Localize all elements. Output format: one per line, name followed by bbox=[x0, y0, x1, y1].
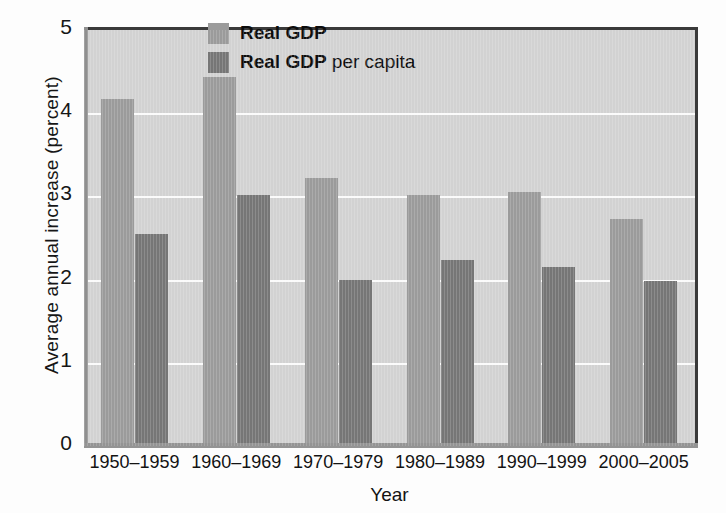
y-tick-label: 4 bbox=[38, 98, 72, 122]
bar-real-gdp bbox=[610, 219, 643, 446]
bar-chart-figure: Average annual increase (percent) 012345… bbox=[0, 0, 726, 513]
y-axis-tick-labels: 012345 bbox=[38, 0, 72, 513]
y-tick-label: 0 bbox=[38, 431, 72, 455]
y-axis-line bbox=[84, 27, 88, 446]
y-tick-label: 3 bbox=[38, 181, 72, 205]
bar-real-gdp bbox=[508, 192, 541, 446]
legend-item-real-gdp-per-capita: Real GDP per capita bbox=[208, 51, 415, 73]
x-tick-label: 1980–1989 bbox=[395, 452, 485, 473]
bar-real-gdp-per-capita bbox=[237, 195, 270, 446]
bar-real-gdp bbox=[203, 77, 236, 446]
bar-group bbox=[101, 30, 168, 446]
bar-group bbox=[508, 30, 575, 446]
x-tick-label: 1990–1999 bbox=[497, 452, 587, 473]
bar-real-gdp bbox=[305, 178, 338, 446]
plot-area bbox=[84, 27, 698, 446]
bar-real-gdp-per-capita bbox=[441, 260, 474, 446]
legend-label-thin: per capita bbox=[327, 51, 416, 72]
bar-real-gdp-per-capita bbox=[644, 281, 677, 446]
legend-label-real-gdp-per-capita: Real GDP per capita bbox=[240, 51, 415, 73]
x-axis-tick-labels: 1950–19591960–19691970–19791980–19891990… bbox=[84, 452, 695, 482]
x-tick-label: 1960–1969 bbox=[191, 452, 281, 473]
bar-real-gdp bbox=[101, 99, 134, 446]
y-tick-label: 1 bbox=[38, 348, 72, 372]
bar-real-gdp-per-capita bbox=[542, 267, 575, 446]
chart-legend: Real GDP Real GDP per capita bbox=[208, 22, 415, 80]
legend-label-real-gdp: Real GDP bbox=[240, 22, 327, 44]
bar-real-gdp-per-capita bbox=[339, 280, 372, 446]
bar-groups bbox=[84, 30, 695, 446]
x-tick-label: 1970–1979 bbox=[293, 452, 383, 473]
bar-group bbox=[203, 30, 270, 446]
bar-group bbox=[407, 30, 474, 446]
y-tick-label: 5 bbox=[38, 15, 72, 39]
bar-group bbox=[305, 30, 372, 446]
x-axis-line bbox=[84, 443, 698, 448]
x-tick-label: 2000–2005 bbox=[599, 452, 689, 473]
legend-label-bold: Real GDP bbox=[240, 51, 327, 72]
legend-item-real-gdp: Real GDP bbox=[208, 22, 415, 44]
bar-real-gdp bbox=[407, 195, 440, 446]
x-axis-title: Year bbox=[84, 484, 695, 506]
bar-real-gdp-per-capita bbox=[135, 234, 168, 446]
bar-group bbox=[610, 30, 677, 446]
legend-swatch-icon-real-gdp bbox=[208, 23, 229, 44]
legend-swatch-icon-real-gdp-per-capita bbox=[208, 52, 229, 73]
y-tick-label: 2 bbox=[38, 265, 72, 289]
x-tick-label: 1950–1959 bbox=[89, 452, 179, 473]
